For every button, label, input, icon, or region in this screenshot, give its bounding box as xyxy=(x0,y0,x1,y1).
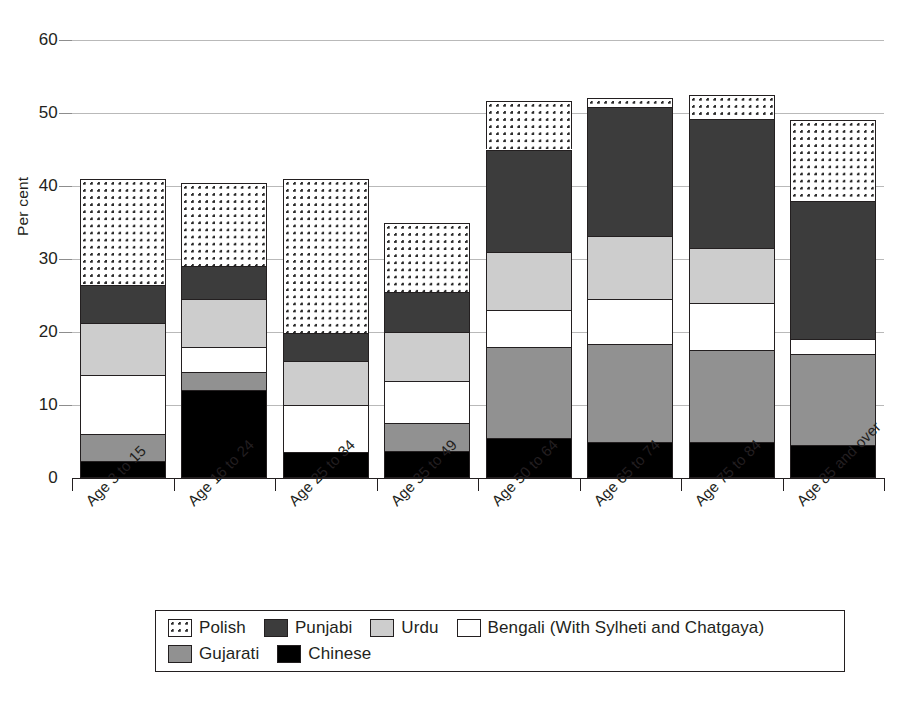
bar-segment xyxy=(790,339,876,354)
bar-segment xyxy=(486,310,572,347)
y-tick-label-50: 50 xyxy=(39,103,58,123)
stacked-bar-chart: Per cent 0102030405060 Age 3 to 15Age 16… xyxy=(0,0,918,708)
bar-segment xyxy=(587,236,673,300)
bar-segment xyxy=(384,381,470,423)
legend: PolishPunjabiUrduBengali (With Sylheti a… xyxy=(155,610,845,672)
bar-segment xyxy=(80,323,166,376)
y-tick-mark-40 xyxy=(59,186,72,187)
y-tick-mark-60 xyxy=(59,40,72,41)
bar-segment xyxy=(384,332,470,381)
bar-segment xyxy=(587,344,673,443)
bar-segment xyxy=(486,101,572,150)
bar-segment xyxy=(80,179,166,285)
legend-row-1: PolishPunjabiUrduBengali (With Sylheti a… xyxy=(168,618,782,638)
legend-item-label: Urdu xyxy=(401,618,438,638)
bar-segment xyxy=(181,347,267,373)
x-tick-mark xyxy=(884,478,885,491)
x-tick-mark xyxy=(174,478,175,491)
x-tick-mark xyxy=(72,478,73,491)
bar-segment xyxy=(80,375,166,434)
dark-gray-swatch xyxy=(264,619,288,637)
bar-group xyxy=(283,40,369,478)
bar-segment xyxy=(181,372,267,390)
legend-item-label: Chinese xyxy=(308,644,371,664)
legend-item-label: Gujarati xyxy=(199,644,259,664)
y-tick-label-60: 60 xyxy=(39,30,58,50)
bar-segment xyxy=(384,292,470,332)
bar-segment xyxy=(283,361,369,405)
legend-item[interactable]: Urdu xyxy=(370,618,438,638)
legend-item[interactable]: Polish xyxy=(168,618,246,638)
bar-group xyxy=(80,40,166,478)
x-tick-mark xyxy=(377,478,378,491)
dotted-swatch xyxy=(168,619,192,637)
bars-layer xyxy=(72,40,884,478)
x-tick-mark xyxy=(580,478,581,491)
bar-segment xyxy=(283,333,369,361)
y-tick-label-20: 20 xyxy=(39,322,58,342)
y-tick-label-0: 0 xyxy=(48,468,58,488)
white-swatch xyxy=(457,619,481,637)
bar-segment xyxy=(689,248,775,303)
y-tick-label-40: 40 xyxy=(39,176,58,196)
light-gray-swatch xyxy=(370,619,394,637)
legend-row-2: GujaratiChinese xyxy=(168,644,389,664)
legend-item-label: Punjabi xyxy=(295,618,352,638)
bar-segment xyxy=(181,183,267,266)
bar-group xyxy=(181,40,267,478)
y-axis-title: Per cent xyxy=(14,177,32,236)
bar-segment xyxy=(587,107,673,235)
bar-segment xyxy=(587,299,673,344)
bar-segment xyxy=(790,120,876,200)
legend-item[interactable]: Punjabi xyxy=(264,618,352,638)
mid-gray-swatch xyxy=(168,645,192,663)
bar-segment xyxy=(384,223,470,292)
bar-group xyxy=(689,40,775,478)
bar-segment xyxy=(689,350,775,442)
y-tick-mark-10 xyxy=(59,405,72,406)
y-tick-label-30: 30 xyxy=(39,249,58,269)
y-tick-label-10: 10 xyxy=(39,395,58,415)
bar-segment xyxy=(181,299,267,346)
legend-item[interactable]: Gujarati xyxy=(168,644,259,664)
legend-item-label: Polish xyxy=(199,618,246,638)
bar-segment xyxy=(790,201,876,340)
legend-item-label: Bengali (With Sylheti and Chatgaya) xyxy=(488,618,765,638)
bar-group xyxy=(486,40,572,478)
bar-segment xyxy=(587,98,673,107)
bar-segment xyxy=(689,303,775,350)
y-tick-mark-20 xyxy=(59,332,72,333)
bar-segment xyxy=(283,179,369,334)
bar-group xyxy=(790,40,876,478)
y-tick-mark-30 xyxy=(59,259,72,260)
bar-group xyxy=(384,40,470,478)
x-tick-mark xyxy=(681,478,682,491)
bar-group xyxy=(587,40,673,478)
bar-segment xyxy=(486,347,572,438)
x-tick-mark xyxy=(783,478,784,491)
legend-item[interactable]: Bengali (With Sylheti and Chatgaya) xyxy=(457,618,765,638)
legend-item[interactable]: Chinese xyxy=(277,644,371,664)
x-tick-mark xyxy=(478,478,479,491)
black-swatch xyxy=(277,645,301,663)
y-tick-mark-50 xyxy=(59,113,72,114)
bar-segment xyxy=(689,95,775,119)
bar-segment xyxy=(486,150,572,252)
bar-segment xyxy=(486,252,572,310)
bar-segment xyxy=(80,285,166,323)
bar-segment xyxy=(689,119,775,248)
plot-area xyxy=(72,40,884,478)
x-tick-mark xyxy=(275,478,276,491)
bar-segment xyxy=(181,266,267,299)
